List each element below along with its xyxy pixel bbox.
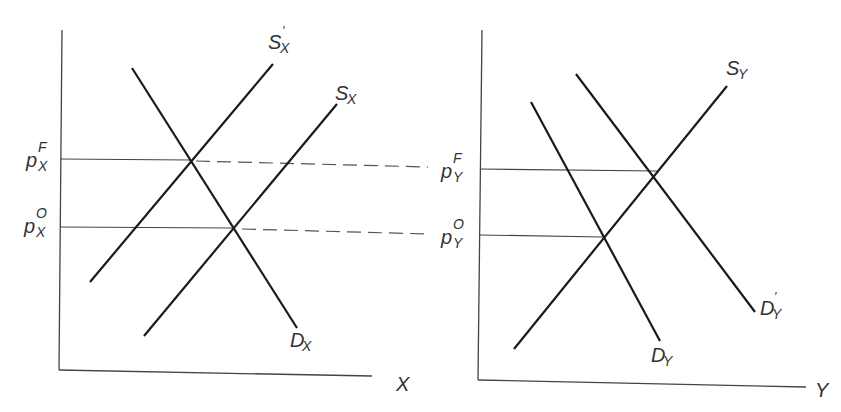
price-x-final-label: pFX: [26, 150, 37, 170]
label-base: p: [26, 149, 37, 171]
supply-y-curve: [514, 86, 727, 349]
label-base: p: [24, 215, 35, 237]
label-sub: Y: [453, 170, 462, 184]
demand-y-prime-label: D′Y: [760, 298, 774, 318]
price-y-original-label: pOY: [441, 227, 452, 247]
label-prime: ′: [774, 290, 776, 303]
label-prime: ′: [282, 24, 284, 37]
label-base: p: [441, 160, 452, 182]
demand-y-prime-curve: [576, 74, 755, 312]
right-horizontal-axis: [478, 380, 806, 387]
px-final-line: [60, 159, 190, 160]
x-axis-label: X: [396, 374, 409, 394]
label-sup: O: [453, 217, 464, 231]
px-final-dashed-line: [196, 161, 428, 167]
price-y-final-label: pFY: [441, 161, 452, 181]
demand-x-curve: [132, 68, 297, 328]
label-sub: Y: [453, 236, 462, 250]
label-sup: O: [36, 206, 47, 220]
px-original-dashed-line: [242, 229, 428, 234]
demand-y-label: DY: [651, 345, 665, 365]
label-sub: X: [302, 339, 311, 353]
label-sup: F: [38, 140, 47, 154]
demand-x-label: DX: [290, 330, 304, 350]
y-axis-label: Y: [815, 380, 828, 400]
label-sub: Y: [738, 67, 747, 81]
py-original-line: [480, 235, 603, 237]
px-original-line: [60, 227, 233, 228]
supply-x-label: SX: [335, 83, 348, 103]
label-base: p: [441, 226, 452, 248]
supply-y-label: SY: [726, 58, 739, 78]
label-sub: Y: [772, 307, 781, 321]
left-vertical-axis: [59, 30, 62, 370]
label-sub: X: [36, 225, 45, 239]
supply-x-prime-curve: [90, 64, 273, 282]
label-sub: X: [347, 92, 356, 106]
left-horizontal-axis: [59, 370, 372, 376]
supply-x-curve: [144, 104, 337, 336]
label-sub: X: [38, 159, 47, 173]
price-x-original-label: pOX: [24, 216, 35, 236]
label-sub: X: [280, 41, 289, 55]
two-market-diagram: [0, 0, 841, 412]
label-sub: Y: [663, 354, 672, 368]
supply-x-prime-label: S′X: [268, 32, 281, 52]
label-sup: F: [453, 151, 462, 165]
right-vertical-axis: [478, 30, 482, 380]
